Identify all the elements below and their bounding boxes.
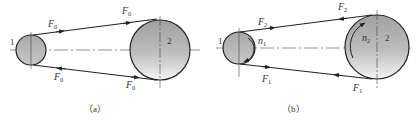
tension-label-lower-right: F0 (125, 79, 135, 91)
large-pulley-label: 2 (167, 36, 172, 46)
tension-label-lower-left: F1 (261, 73, 271, 85)
belt-drive-diagram: 1 2 F0 F0 F0 F0 （a） 1 2 n1 n2 F2 F2 F1 (0, 0, 416, 120)
tension-label-lower-right: F1 (352, 82, 362, 94)
tension-arrow (262, 67, 268, 68)
tension-label-upper-right: F2 (337, 1, 347, 13)
speed-label-small: n1 (258, 35, 266, 47)
panel-b-caption: （b） (282, 104, 305, 114)
small-pulley-label: 1 (218, 36, 223, 46)
tension-arrow (336, 75, 342, 76)
panel-b: 1 2 n1 n2 F2 F2 F1 F1 （b） (216, 1, 414, 114)
panel-a-caption: （a） (84, 104, 106, 114)
tension-label-upper-right: F0 (121, 5, 131, 17)
tension-arrow (59, 68, 65, 69)
large-pulley-label: 2 (385, 33, 390, 43)
tension-arrow (131, 77, 137, 78)
panel-a: 1 2 F0 F0 F0 F0 （a） (10, 5, 202, 114)
tension-label-lower-left: F0 (53, 71, 63, 83)
tension-label-upper-left: F2 (257, 16, 267, 28)
small-pulley-label: 1 (10, 37, 15, 47)
tension-arrow (267, 28, 273, 29)
tension-label-upper-left: F0 (47, 18, 57, 30)
